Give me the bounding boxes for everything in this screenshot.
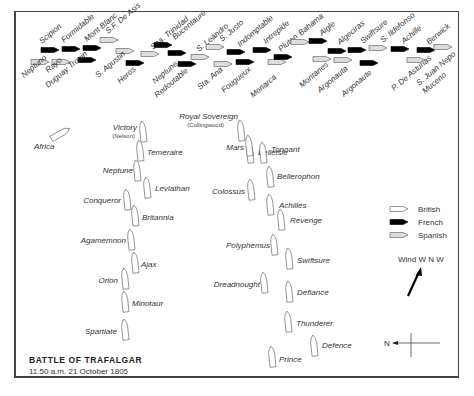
ship-british: Royal Sovereign(Collingwood) [179,112,245,141]
compass: N [384,333,440,357]
french-ship-icon [83,46,101,51]
british-ship-icon [266,194,274,216]
ship-label: Defence [322,341,352,350]
french-ship-icon [391,47,409,52]
french-ship-icon [417,48,435,53]
british-ship-icon [237,120,245,142]
british-ship-icon [127,229,135,251]
ship-british: Agamemnon [80,229,135,251]
spanish-ship-icon [206,45,224,50]
british-ship-icon [131,252,139,274]
french-ship-icon [253,48,271,53]
british-ship-icon [259,142,267,164]
ship-british: Spartiate [85,319,129,341]
legend-label: Spanish [418,231,447,240]
ship-british: Revenge [277,209,323,231]
british-ship-icon [285,281,293,303]
ship-label: Africa [33,142,55,151]
ship-label: Revenge [290,216,323,225]
ship-label: Tonnant [271,145,300,154]
ship-british: Britannia [131,205,174,227]
ship-label: Orion [98,276,118,285]
french-ship-icon [274,55,292,60]
ship-label: Achilles [278,201,307,210]
spanish-ship-icon [268,60,286,65]
british-ship-icon [50,126,71,142]
french-ship-icon [309,39,327,44]
ship-label: Conqueror [83,196,121,205]
legend-spanish-icon [390,233,408,238]
ship-british: Minotaur [121,291,164,313]
ship-label: Prince [279,355,302,364]
british-ship-icon [123,189,131,211]
spanish-ship-icon [313,57,331,62]
ship-label: Scipion [38,21,64,45]
ship-label: Berwick [425,21,453,47]
british-ship-icon [266,166,274,188]
ship-label: Spartiate [85,327,118,336]
wind-indicator: Wind W N W [398,255,444,296]
wind-arrow-icon [408,272,419,296]
ship-british: Bellerophon [266,166,320,188]
ship-british: Leviathan [143,177,190,199]
battle-map: ScipionFormidableMont BlancS.F. De AsisN… [0,0,474,396]
french-ship-icon [178,62,196,67]
british-ship-icon [260,272,268,294]
british-ship-icon [285,248,293,270]
french-ship-icon [360,61,378,66]
ship-label-sub: (Nelson) [112,133,135,139]
ship-british: Victory(Nelson) [112,121,147,143]
ship-british: Defiance [285,281,329,303]
map-title: BATTLE OF TRAFALGAR [29,355,142,365]
ship-label: Britannia [142,213,174,222]
ship-label: Dreadnought [214,280,261,289]
compass-north-label: N [384,339,390,348]
ship-label: Minotaur [132,299,163,308]
british-ship-icon [245,135,253,157]
french-ship-icon [236,60,254,65]
ship-label: Royal Sovereign [179,112,238,121]
ship-label: Monarca [249,72,279,99]
wind-label: Wind W N W [398,255,444,264]
ship-label: Leviathan [155,184,190,193]
spanish-ship-icon [141,52,159,57]
french-ship-icon [154,43,172,48]
ship-british: Temeraire [136,140,183,162]
french-ship-icon [168,51,186,56]
british-ship-icon [121,268,129,290]
ship-british: Neptune [103,160,141,182]
ship-french: Heros [116,61,144,86]
ship-british: Tonnant [259,142,301,164]
british-ship-icon [133,160,141,182]
ship-label: Mars [226,143,244,152]
ship-british: Ajax [131,252,158,274]
legend-label: British [418,205,440,214]
british-ship-icon [277,209,285,231]
ship-british: Orion [98,268,129,290]
ship-label: Agamemnon [80,236,127,245]
ship-label: Fougueux [220,64,254,94]
spanish-ship-icon [334,58,352,63]
legend: BritishFrenchSpanish [390,205,447,240]
ship-british: Dreadnought [214,272,268,294]
ship-british: Prince [268,346,302,368]
ship-label: Polyphemus [226,241,270,250]
ship-british: Swiftsure [285,248,331,270]
ship-label: Neptune [103,166,134,175]
french-ship-icon [227,50,245,55]
ship-british: Defence [310,335,352,357]
ship-label-sub: (Collingwood) [187,122,224,128]
british-ship-icon [268,346,276,368]
ship-label: Ajax [140,260,158,269]
legend-french-icon [390,220,408,225]
map-subtitle: 11.50 a.m. 21 October 1805 [29,367,128,376]
ship-british: Africa [33,126,71,151]
french-ship-icon [62,47,80,52]
british-ship-icon [121,291,129,313]
british-fleet-columns: AfricaVictory(Nelson)TemeraireNeptuneLev… [33,112,352,367]
french-ship-icon [126,61,144,66]
ship-label: Swiftsure [297,256,330,265]
ship-label: Defiance [297,288,329,297]
legend-british-icon [390,207,408,212]
french-ship-icon [348,48,366,53]
